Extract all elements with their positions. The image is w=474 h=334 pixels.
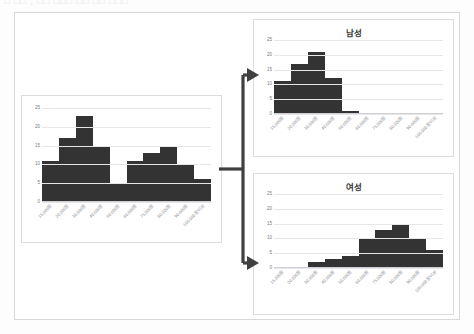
y-axis-tick-label: 20 [267,207,272,212]
bar [93,146,110,202]
x-axis-tick-label: 20,000원 [55,204,70,219]
x-axis-tick-label: 90,000원 [406,116,421,131]
bar [127,161,144,202]
grid-line [42,183,211,184]
plot-area-total: 15,000원20,000원30,000원40,000원50,000원60,00… [42,108,211,202]
bar [42,161,59,202]
grid-line [42,127,211,128]
y-axis-tick-label: 25 [267,192,272,197]
x-axis-tick-label: 15,000원 [270,116,285,131]
grid-line [42,164,211,165]
x-axis-tick-label: 75,000원 [372,116,387,131]
grid-line [274,268,443,269]
diagram-frame: 15,000원20,000원30,000원40,000원50,000원60,00… [14,12,460,320]
x-axis-tick-label: 15,000원 [38,204,53,219]
bar [59,138,76,202]
grid-line [274,84,443,85]
x-axis-tick-label: 30,000원 [304,116,319,131]
bar [110,183,127,202]
x-axis-tick-label: 20,000원 [287,116,302,131]
plot-area-male: 15,000원20,000원30,000원40,000원50,000원60,00… [274,40,443,114]
x-axis-tick-label: 30,000원 [72,204,87,219]
y-axis-tick-label: 5 [269,251,272,256]
y-axis-tick-label: 0 [37,200,40,205]
cut-off-header-text: □ □□ , □□ □□□ □□ □□ □□□ [0,0,474,7]
x-axis-tick-label: 60,000원 [355,116,370,131]
chart-title-female: 여성 [254,180,453,192]
x-axis-tick-label: 50,000원 [338,270,353,285]
chart-title-male: 남성 [254,26,453,38]
grid-line [274,194,443,195]
y-axis-tick-label: 20 [267,53,272,58]
x-axis-tick-label: 80,000원 [157,204,172,219]
y-axis-tick-label: 10 [267,236,272,241]
x-axis-tick-label: 40,000원 [321,270,336,285]
bar [291,64,308,114]
y-axis-tick-label: 5 [37,181,40,186]
bar [274,81,291,114]
x-axis-tick-label: 80,000원 [389,116,404,131]
grid-line [274,224,443,225]
cut-off-header-label: □ □□ , □□ □□□ □□ □□ □□□ [0,0,474,6]
x-axis-tick-label: 40,000원 [89,204,104,219]
x-axis-tick-label: 75,000원 [140,204,155,219]
y-axis-tick-label: 10 [267,82,272,87]
y-axis-tick-label: 15 [35,143,40,148]
x-axis-tick-label: 30,000원 [304,270,319,285]
grid-line [274,40,443,41]
x-axis-tick-label: 50,000원 [338,116,353,131]
x-axis-tick-label: 80,000원 [389,270,404,285]
x-axis-tick-label: 90,000원 [406,270,421,285]
x-axis-tick-label: 60,000원 [355,270,370,285]
bar-series-total [42,108,211,202]
chart-panel-female[interactable]: 여성 15,000원20,000원30,000원40,000원50,000원60… [253,173,454,315]
y-axis-tick-label: 20 [35,125,40,130]
y-axis-tick-label: 25 [267,38,272,43]
y-axis-tick-label: 0 [269,266,272,271]
y-axis-tick-label: 15 [267,67,272,72]
y-axis-tick-label: 5 [269,97,272,102]
y-axis-tick-label: 10 [35,162,40,167]
chart-panel-male[interactable]: 남성 15,000원20,000원30,000원40,000원50,000원60… [253,19,454,157]
chart-panel-total[interactable]: 15,000원20,000원30,000원40,000원50,000원60,00… [21,95,222,243]
plot-area-female: 15,000원20,000원30,000원40,000원50,000원60,00… [274,194,443,268]
x-axis-tick-label: 20,000원 [287,270,302,285]
grid-line [274,238,443,239]
grid-line [42,146,211,147]
slide-canvas: □ □□ , □□ □□□ □□ □□ □□□ 15,000원20,000원30… [0,0,474,334]
grid-line [274,253,443,254]
y-axis-tick-label: 0 [269,112,272,117]
x-axis-tick-label: 75,000원 [372,270,387,285]
bar [160,146,177,202]
x-axis-tick-label: 50,000원 [106,204,121,219]
x-axis-tick-label: 40,000원 [321,116,336,131]
bar-series-female [274,194,443,268]
bar [76,116,93,202]
x-axis-tick-label: 60,000원 [123,204,138,219]
grid-line [42,108,211,109]
grid-line [274,114,443,115]
grid-line [42,202,211,203]
x-axis-tick-label: 90,000원 [174,204,189,219]
bar [375,230,392,268]
bar [308,52,325,114]
y-axis-tick-label: 25 [35,106,40,111]
grid-line [274,55,443,56]
y-axis-tick-label: 15 [267,221,272,226]
bar-series-male [274,40,443,114]
bar [143,153,160,202]
grid-line [274,99,443,100]
grid-line [274,70,443,71]
grid-line [274,209,443,210]
bar [392,224,409,268]
x-axis-tick-label: 15,000원 [270,270,285,285]
